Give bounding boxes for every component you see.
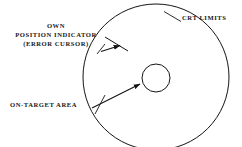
own-position-label-line2: POSITION INDICATOR [4, 30, 108, 39]
own-position-label-line1: OWN [4, 21, 108, 30]
on-target-area-label: ON-TARGET AREA [10, 100, 77, 109]
crt-limits-leader [164, 12, 181, 22]
on-target-area-leader-arrow [92, 84, 140, 108]
on-target-area-leader-tick [95, 95, 105, 114]
crt-target-diagram: OWN POSITION INDICATOR (ERROR CURSOR) CR… [0, 0, 242, 147]
on-target-area-circle [142, 64, 170, 92]
crt-limits-label: CRT LIMITS [182, 13, 227, 22]
own-position-indicator-label: OWN POSITION INDICATOR (ERROR CURSOR) [4, 21, 108, 48]
own-position-label-line3: (ERROR CURSOR) [4, 39, 108, 48]
